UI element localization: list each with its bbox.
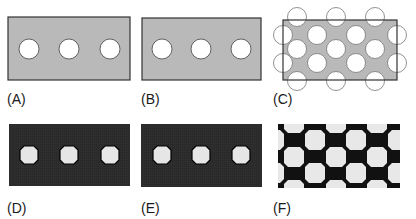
panel-e <box>141 124 262 187</box>
panel-label-d: (D) <box>7 201 26 215</box>
panel-b <box>142 18 261 80</box>
panel-label-f: (F) <box>273 201 291 215</box>
panel-f <box>264 113 408 200</box>
panel-label-b: (B) <box>141 92 160 106</box>
panel-d <box>9 124 130 186</box>
panel-label-a: (A) <box>7 92 26 106</box>
panel-label-e: (E) <box>141 201 160 215</box>
panel-label-c: (C) <box>273 92 292 106</box>
panel-a <box>8 17 130 80</box>
figure-canvas <box>0 0 416 219</box>
panel-c <box>274 8 407 91</box>
